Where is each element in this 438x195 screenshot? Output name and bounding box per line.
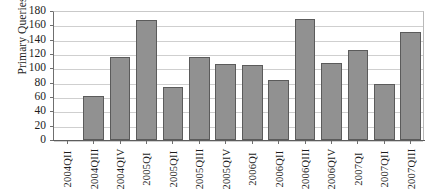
bar-slot — [163, 11, 184, 140]
bar-slot — [136, 11, 157, 140]
x-tick-mark — [252, 141, 253, 144]
bar — [189, 57, 210, 140]
x-tick-label: 2005QII — [167, 151, 178, 188]
x-label-slot: 2006QI — [239, 143, 265, 195]
x-tick-label: 2006QII — [273, 151, 284, 188]
x-tick-mark — [305, 141, 306, 144]
x-tick-label: 2005QI — [141, 152, 152, 185]
bar — [321, 63, 342, 140]
x-label-slot: 2004QII — [54, 143, 80, 195]
bar-slot — [295, 11, 316, 140]
y-tick-label: 120 — [0, 48, 46, 60]
y-tick-label: 20 — [0, 120, 46, 132]
bar — [400, 32, 421, 140]
bar-slot — [215, 11, 236, 140]
bar-slot — [321, 11, 342, 140]
y-tick-mark — [50, 40, 53, 41]
y-tick-label: 60 — [0, 91, 46, 103]
x-tick-mark — [410, 141, 411, 144]
y-tick-mark — [50, 68, 53, 69]
x-tick-label: 2006QI — [247, 152, 258, 185]
x-tick-mark — [120, 141, 121, 144]
bar — [163, 87, 184, 140]
y-tick-label: 140 — [0, 34, 46, 46]
x-label-slot: 2004QIII — [80, 143, 106, 195]
x-tick-mark — [331, 141, 332, 144]
x-tick-label: 2004QII — [62, 151, 73, 188]
bar-slot — [189, 11, 210, 140]
x-label-slot: 2006QII — [265, 143, 291, 195]
x-axis-line — [53, 140, 425, 141]
x-tick-mark — [146, 141, 147, 144]
x-tick-label: 2004QIV — [115, 148, 126, 189]
bar-series — [54, 11, 424, 140]
y-tick-mark — [50, 54, 53, 55]
y-tick-mark — [50, 25, 53, 26]
x-label-slot: 2005QI — [133, 143, 159, 195]
y-tick-label: 40 — [0, 105, 46, 117]
bar-slot — [83, 11, 104, 140]
bar — [242, 65, 263, 140]
bar — [136, 20, 157, 140]
bar — [374, 84, 395, 140]
x-tick-label: 2007QI — [352, 152, 363, 185]
x-tick-mark — [67, 141, 68, 144]
y-tick-label: 160 — [0, 19, 46, 31]
x-tick-mark — [278, 141, 279, 144]
bar — [83, 96, 104, 140]
bar-chart: Primary Queries 180160140120100806040200… — [0, 0, 438, 195]
x-tick-mark — [384, 141, 385, 144]
x-tick-mark — [225, 141, 226, 144]
x-label-slot: 2007QII — [371, 143, 397, 195]
y-tick-mark — [50, 97, 53, 98]
bar — [215, 64, 236, 140]
y-tick-label: 180 — [0, 5, 46, 17]
bar — [295, 19, 316, 140]
y-tick-mark — [50, 140, 53, 141]
x-label-slot: 2005QIII — [186, 143, 212, 195]
x-tick-label: 2007QIII — [405, 149, 416, 190]
bar-slot — [348, 11, 369, 140]
y-tick-mark — [50, 111, 53, 112]
x-tick-label: 2005QIV — [220, 148, 231, 189]
x-tick-mark — [93, 141, 94, 144]
x-label-slot: 2005QIV — [213, 143, 239, 195]
x-tick-mark — [357, 141, 358, 144]
x-tick-mark — [172, 141, 173, 144]
x-tick-label: 2005QIII — [194, 149, 205, 190]
y-tick-mark — [50, 11, 53, 12]
x-tick-label: 2006QIV — [326, 148, 337, 189]
bar — [110, 57, 131, 140]
bar — [268, 80, 289, 140]
y-tick-label: 80 — [0, 77, 46, 89]
x-label-slot: 2006QIV — [318, 143, 344, 195]
x-axis-labels: 2004QII2004QIII2004QIV2005QI2005QII2005Q… — [54, 143, 424, 195]
x-tick-label: 2006QIII — [300, 149, 311, 190]
bar-slot — [57, 11, 78, 140]
x-tick-label: 2004QIII — [88, 149, 99, 190]
x-label-slot: 2004QIV — [107, 143, 133, 195]
bar-slot — [400, 11, 421, 140]
y-tick-label: 0 — [0, 134, 46, 146]
y-tick-label: 100 — [0, 62, 46, 74]
x-label-slot: 2005QII — [160, 143, 186, 195]
bar-slot — [110, 11, 131, 140]
bar-slot — [242, 11, 263, 140]
x-tick-mark — [199, 141, 200, 144]
bar-slot — [374, 11, 395, 140]
bar — [348, 50, 369, 140]
x-label-slot: 2006QIII — [292, 143, 318, 195]
x-label-slot: 2007QIII — [398, 143, 424, 195]
y-tick-mark — [50, 83, 53, 84]
y-tick-mark — [50, 126, 53, 127]
x-label-slot: 2007QI — [345, 143, 371, 195]
bar-slot — [268, 11, 289, 140]
x-tick-label: 2007QII — [379, 151, 390, 188]
